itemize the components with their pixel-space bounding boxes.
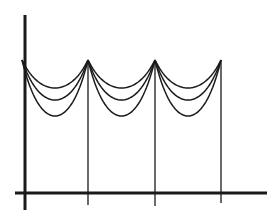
cable-curve-span1-2 [22, 60, 88, 100]
cable-curve-span3-1 [155, 60, 221, 88]
catenary-diagram [0, 0, 278, 218]
cable-curves [22, 60, 221, 116]
cable-curve-span2-1 [88, 60, 155, 88]
cable-curve-span2-2 [88, 60, 155, 100]
cable-curve-span3-2 [155, 60, 221, 100]
diagram-canvas [0, 0, 278, 218]
cable-curve-span1-1 [22, 60, 88, 88]
posts [88, 60, 221, 206]
